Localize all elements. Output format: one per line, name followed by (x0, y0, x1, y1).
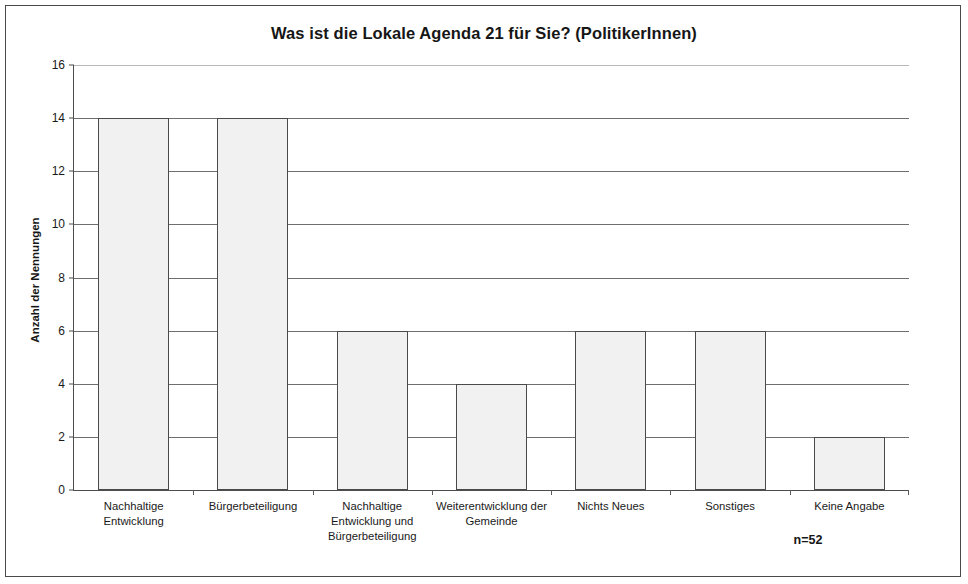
x-axis-category-label: Nichts Neues (551, 499, 670, 514)
gridline (74, 118, 909, 119)
x-axis-tick-mark (790, 490, 791, 495)
x-axis-category-label: Sonstiges (670, 499, 789, 514)
x-axis-tick-mark (313, 490, 314, 495)
x-axis-category-label: Weiterentwicklung der Gemeinde (432, 499, 551, 529)
y-axis-tick-label: 6 (58, 324, 65, 338)
gridline (74, 278, 909, 279)
x-axis-tick-mark (193, 490, 194, 495)
y-axis-tick-mark (69, 65, 74, 66)
figure-frame: Was ist die Lokale Agenda 21 für Sie? (P… (5, 5, 961, 577)
x-axis-tick-mark (670, 490, 671, 495)
y-axis-tick-label: 8 (58, 271, 65, 285)
bar (217, 118, 288, 490)
gridline (74, 65, 909, 66)
y-axis-tick-mark (69, 436, 74, 437)
y-axis-title: Anzahl der Nennungen (29, 180, 41, 380)
y-axis-tick-mark (69, 490, 74, 491)
x-axis-tick-mark (432, 490, 433, 495)
bar (456, 384, 527, 490)
y-axis-tick-label: 2 (58, 430, 65, 444)
y-axis-tick-label: 10 (52, 217, 65, 231)
bar (98, 118, 169, 490)
bar (575, 331, 646, 490)
x-axis-tick-mark (908, 490, 909, 495)
gridline (74, 224, 909, 225)
y-axis-tick-mark (69, 330, 74, 331)
sample-size-annotation: n=52 (748, 533, 868, 547)
y-axis-tick-mark (69, 171, 74, 172)
bar (337, 331, 408, 490)
y-axis-tick-mark (69, 383, 74, 384)
plot-area: 0246810121416Nachhaltige EntwicklungBürg… (73, 65, 909, 491)
y-axis-tick-mark (69, 118, 74, 119)
x-axis-category-label: Nachhaltige Entwicklung (74, 499, 193, 529)
x-axis-category-label: Nachhaltige Entwicklung und Bürgerbeteil… (313, 499, 432, 544)
bar (814, 437, 885, 490)
y-axis-tick-mark (69, 277, 74, 278)
x-axis-category-label: Bürgerbeteiligung (193, 499, 312, 514)
bar (695, 331, 766, 490)
y-axis-tick-label: 14 (52, 111, 65, 125)
y-axis-tick-label: 16 (52, 58, 65, 72)
y-axis-tick-label: 0 (58, 483, 65, 497)
chart-title: Was ist die Lokale Agenda 21 für Sie? (P… (6, 24, 962, 43)
gridline (74, 331, 909, 332)
y-axis-tick-label: 4 (58, 377, 65, 391)
y-axis-tick-mark (69, 224, 74, 225)
x-axis-tick-mark (551, 490, 552, 495)
x-axis-category-label: Keine Angabe (790, 499, 909, 514)
y-axis-tick-label: 12 (52, 164, 65, 178)
gridline (74, 171, 909, 172)
